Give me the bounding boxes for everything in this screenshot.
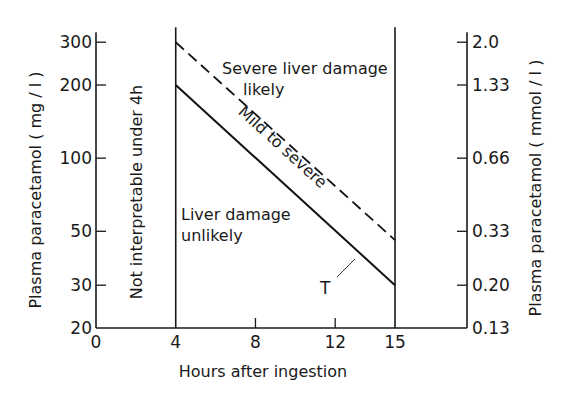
y-tick-label-right: 0.33 (472, 221, 510, 241)
treatment-line (176, 85, 395, 285)
annotation-T: T (319, 278, 331, 298)
y-tick-label-right: 1.33 (472, 75, 510, 95)
y-tick-label-left: 200 (60, 75, 92, 95)
y-tick-label-right: 0.20 (472, 275, 510, 295)
y-tick-label-left: 30 (70, 275, 92, 295)
y-axis-label-right: Plasma paracetamol ( mmol / l ) (526, 60, 545, 317)
y-axis-label-left: Plasma paracetamol ( mg / l ) (26, 71, 45, 308)
y-tick-label-left: 100 (60, 148, 92, 168)
x-axis-label: Hours after ingestion (179, 362, 347, 381)
annotation-not-interpretable: Not interpretable under 4h (127, 85, 146, 300)
x-tick-label: 4 (170, 332, 181, 352)
series-lines (176, 42, 395, 285)
y-tick-label-right: 0.66 (472, 148, 510, 168)
annotation-unlikely-line2: unlikely (181, 226, 243, 245)
y-tick-label-right: 2.0 (472, 32, 499, 52)
annotation-unlikely: Liver damage (181, 205, 291, 224)
annotation-severe-line2: likely (243, 80, 284, 99)
paracetamol-nomogram: 2030501002003000.130.200.330.661.332.004… (0, 0, 567, 399)
annotation-mild-to-severe: Mild to severe (235, 102, 331, 192)
y-tick-label-left: 50 (70, 221, 92, 241)
x-tick-label: 0 (91, 332, 102, 352)
y-tick-label-left: 20 (70, 318, 92, 338)
y-tick-label-right: 0.13 (472, 318, 510, 338)
annotation-severe: Severe liver damage (222, 59, 388, 78)
T-leader-line (337, 259, 355, 277)
y-tick-label-left: 300 (60, 32, 92, 52)
x-tick-label: 15 (384, 332, 406, 352)
x-tick-label: 12 (324, 332, 346, 352)
x-tick-label: 8 (250, 332, 261, 352)
